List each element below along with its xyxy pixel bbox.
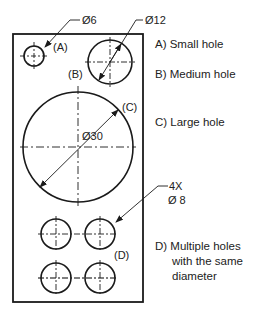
legend-d-line3: diameter — [172, 269, 217, 283]
hole-d-tag: (D) — [114, 249, 129, 261]
legend-d-line2: with the same — [172, 254, 243, 268]
hole-a-dimension: Ø6 — [82, 14, 97, 26]
hole-d-group — [38, 216, 118, 296]
hole-a — [20, 42, 48, 70]
legend-b: B) Medium hole — [155, 67, 236, 81]
hole-c-dimension: Ø30 — [82, 130, 103, 142]
hole-b-tag: (B) — [68, 68, 83, 80]
hole-d-count: 4X — [169, 180, 183, 192]
legend-c: C) Large hole — [155, 115, 225, 129]
legend-d-line1: D) Multiple holes — [155, 239, 241, 253]
hole-d-dimension: Ø 8 — [168, 194, 186, 206]
hole-b-dimension: Ø12 — [145, 14, 166, 26]
hole-c — [20, 86, 136, 208]
leader-d — [116, 186, 168, 222]
legend-a: A) Small hole — [155, 37, 223, 51]
hole-c-tag: (C) — [122, 101, 137, 113]
hole-c-dimension-line — [40, 110, 118, 187]
leader-b — [99, 20, 143, 80]
hole-a-tag: (A) — [53, 41, 68, 53]
